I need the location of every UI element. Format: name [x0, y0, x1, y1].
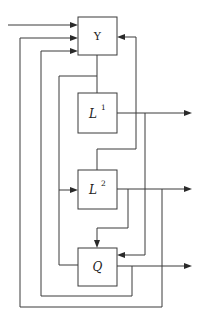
block-l2-superscript: 2 — [101, 179, 106, 188]
arrowhead-icon — [184, 263, 192, 269]
block-l1-superscript: 1 — [101, 103, 106, 112]
block-diagram: Y L 1 L 2 Q — [0, 0, 203, 323]
arrowhead-icon — [70, 187, 78, 193]
arrowhead-icon — [70, 35, 78, 41]
block-q: Q — [78, 248, 117, 286]
arrowhead-icon — [70, 48, 78, 54]
arrowhead-icon — [184, 110, 192, 116]
block-l2: L 2 — [78, 170, 117, 209]
block-l2-label: L — [88, 183, 97, 197]
arrowhead-icon — [94, 240, 100, 248]
arrowhead-icon — [117, 252, 125, 258]
block-gamma: Y — [78, 17, 117, 55]
arrowhead-icon — [70, 22, 78, 28]
block-q-label: Q — [93, 260, 103, 274]
arrowhead-icon — [184, 186, 192, 192]
l1-to-q-wire — [123, 113, 145, 255]
block-l1-label: L — [88, 107, 97, 121]
arrowhead-icon — [117, 34, 125, 40]
block-gamma-label: Y — [93, 30, 102, 43]
block-l1: L 1 — [78, 93, 117, 133]
